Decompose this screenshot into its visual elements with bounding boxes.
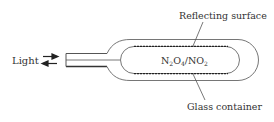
glass-container-leader [193, 74, 205, 100]
gas-label: N2O4/NO2 [161, 55, 208, 67]
bidirectional-arrows-icon [42, 54, 58, 66]
sensor-diagram: Light N2O4/NO2 Reflecting surface Glass … [0, 0, 274, 122]
reflecting-surface-leader [193, 22, 203, 46]
light-label: Light [12, 55, 39, 66]
glass-container-label: Glass container [187, 101, 262, 112]
reflecting-surface-label: Reflecting surface [179, 10, 267, 21]
optical-fiber [66, 54, 120, 67]
